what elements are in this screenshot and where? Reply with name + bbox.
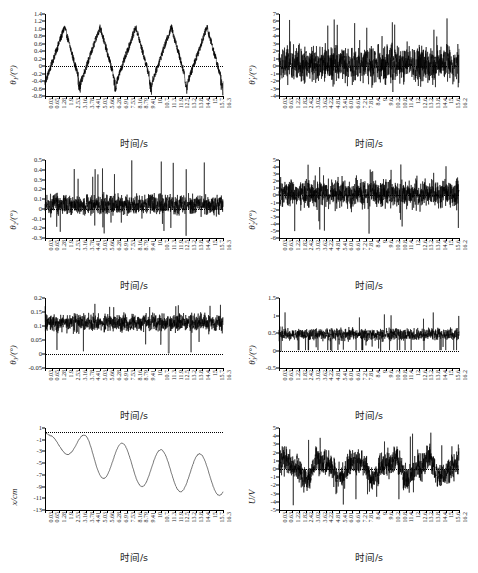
x-tick-mark (148, 510, 149, 513)
x-tick-label: 13.8 (198, 370, 204, 381)
x-tick-mark (366, 238, 367, 241)
x-tick-label: 13.2 (428, 240, 434, 251)
x-tick-label: 8.4 (375, 370, 381, 378)
figure-grid: θ₁/(°) 1.41.21.00.80.60.40.20-0.2-0.4-0.… (0, 0, 478, 573)
x-tick-label: 7.53 (130, 370, 136, 381)
x-tick-mark (161, 368, 162, 371)
data-trace (45, 14, 223, 96)
x-tick-mark (66, 238, 67, 241)
x-tick-label: 8.4 (375, 240, 381, 248)
x-tick-label: 13.2 (428, 512, 434, 523)
x-tick-label: 10.7 (164, 370, 170, 381)
x-tick-label: 8.4 (375, 98, 381, 106)
x-tick-mark (452, 368, 453, 371)
x-tick-label: 12.5 (184, 512, 190, 523)
y-axis-ticks: 0.20.150.10.050-0.05 (5, 298, 45, 368)
x-tick-mark (45, 238, 46, 241)
x-tick-mark (339, 238, 340, 241)
x-tick-mark (86, 96, 87, 99)
x-tick-mark (100, 238, 101, 241)
x-tick-mark (439, 368, 440, 371)
x-tick-label: 6.91 (123, 370, 129, 381)
x-tick-label: 9.6 (388, 240, 394, 248)
x-tick-mark (127, 368, 128, 371)
x-tick-label: 9.41 (150, 98, 156, 109)
x-tick-mark (93, 510, 94, 513)
x-tick-mark (279, 510, 280, 513)
x-tick-mark (459, 368, 460, 371)
x-tick-mark (107, 510, 108, 513)
x-tick-label: 10.2 (395, 240, 401, 251)
x-tick-mark (412, 510, 413, 513)
x-tick-mark (359, 368, 360, 371)
x-tick-label: 0.03 (48, 370, 54, 381)
x-tick-mark (52, 510, 53, 513)
x-tick-label: 13.8 (435, 512, 441, 523)
y-tick-label: 0.15 (31, 309, 42, 316)
x-tick-label: 2.42 (308, 98, 314, 109)
x-tick-mark (286, 238, 287, 241)
x-tick-mark (279, 238, 280, 241)
x-tick-label: 3.78 (89, 512, 95, 523)
x-tick-mark (182, 368, 183, 371)
x-tick-label: 3.78 (89, 98, 95, 109)
data-trace (45, 298, 223, 368)
x-tick-label: 14.4 (442, 240, 448, 251)
x-tick-label: 0.65 (54, 370, 60, 381)
x-tick-label: 8.16 (137, 370, 143, 381)
x-tick-mark (202, 368, 203, 371)
x-tick-label: 6.28 (116, 370, 122, 381)
x-tick-label: 8.16 (137, 98, 143, 109)
x-tick-label: 10.7 (164, 240, 170, 251)
x-tick-label: 7.81 (368, 98, 374, 109)
x-tick-label: 13.2 (428, 370, 434, 381)
x-tick-label: 11.9 (178, 370, 184, 380)
x-tick-label: 14.4 (205, 512, 211, 523)
x-tick-mark (419, 238, 420, 241)
x-tick-label: 13.8 (198, 98, 204, 109)
x-tick-label: 15.6 (455, 98, 461, 109)
x-tick-mark (459, 238, 460, 241)
x-tick-label: 6.61 (355, 370, 361, 381)
x-tick-label: 3.02 (315, 512, 321, 523)
x-tick-mark (155, 96, 156, 99)
x-tick-mark (432, 238, 433, 241)
x-tick-label: 1.28 (61, 98, 67, 109)
x-tick-mark (196, 368, 197, 371)
x-tick-mark (168, 368, 169, 371)
x-tick-mark (182, 96, 183, 99)
y-tick-label: -0.5 (266, 365, 276, 372)
x-tick-label: 10.2 (395, 98, 401, 109)
x-tick-mark (175, 96, 176, 99)
x-tick-label: 11.9 (178, 98, 184, 108)
x-tick-mark (79, 238, 80, 241)
x-tick-mark (339, 96, 340, 99)
x-tick-label: 6.61 (355, 512, 361, 523)
y-tick-label: 0.05 (31, 337, 42, 344)
x-tick-label: 8.79 (143, 512, 149, 523)
x-tick-mark (312, 368, 313, 371)
x-tick-mark (419, 96, 420, 99)
x-tick-label: 4.81 (335, 512, 341, 523)
x-tick-label: 2.53 (75, 370, 81, 381)
x-tick-label: 0.03 (48, 512, 54, 523)
x-tick-mark (223, 96, 224, 99)
y-axis-ticks: 1.41.21.00.80.60.40.20-0.2-0.4-0.6-0.8 (5, 14, 45, 96)
x-tick-mark (459, 96, 460, 99)
x-tick-label: 14.4 (442, 512, 448, 523)
x-tick-mark (419, 510, 420, 513)
x-tick-mark (141, 238, 142, 241)
x-tick-label: 9.41 (150, 512, 156, 523)
x-tick-mark (352, 238, 353, 241)
x-tick-label: 5.03 (102, 370, 108, 381)
y-tick-label: 0.4 (34, 167, 42, 174)
x-tick-mark (79, 96, 80, 99)
x-tick-mark (107, 96, 108, 99)
x-tick-label: 13.8 (198, 240, 204, 251)
x-tick-label: 0.65 (54, 512, 60, 523)
x-tick-label: 7.81 (368, 512, 374, 523)
x-tick-label: 4.41 (95, 370, 101, 381)
x-tick-mark (439, 510, 440, 513)
x-tick-label: 3.62 (322, 98, 328, 109)
x-tick-mark (141, 510, 142, 513)
